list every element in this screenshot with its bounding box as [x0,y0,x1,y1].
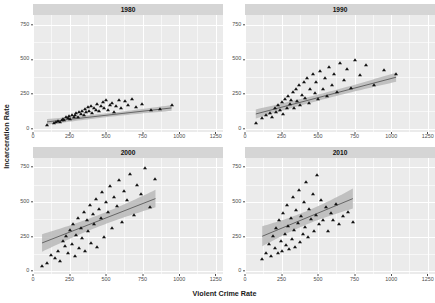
data-point-marker [298,240,302,243]
data-point-marker [296,221,300,224]
data-point-marker [315,174,319,177]
data-point-marker [302,80,306,83]
x-axis: 025050075010001250 [245,132,435,144]
y-axis-tick-label: 250 [20,91,29,96]
data-point-marker [309,217,313,220]
y-axis-tick-label: 500 [232,199,241,204]
x-axis-tick: 500 [102,274,111,282]
data-point-marker [326,230,330,233]
y-axis-tick: 750 [20,22,33,27]
data-point-marker [86,230,90,233]
data-layer [33,15,223,132]
data-point-marker [283,232,287,235]
data-point-marker [128,173,132,176]
data-point-marker [335,90,339,93]
data-point-marker [346,210,350,213]
x-axis: 025050075010001250 [245,274,435,286]
data-point-marker [338,62,342,65]
data-point-marker [323,76,327,79]
x-axis-title-label: Violent Crime Rate [193,289,257,298]
data-point-marker [293,245,297,248]
data-point-marker [120,220,124,223]
facet-panel-1990: 19900250500750025050075010001250 [226,4,435,144]
y-axis-tick: 500 [232,57,245,62]
data-point-marker [110,101,114,104]
data-point-marker [71,222,75,225]
data-point-marker [274,226,278,229]
y-axis-tick-label: 0 [238,126,241,131]
data-point-marker [332,72,336,75]
x-axis-tick: 250 [65,132,74,140]
data-point-marker [122,189,126,192]
facet-strip-label-2010: 2010 [245,147,435,158]
x-axis-tick: 1250 [210,132,222,140]
data-point-marker [312,229,316,232]
data-point-marker [324,205,328,208]
data-point-marker [106,108,110,111]
data-point-marker [148,205,152,208]
x-axis-tick-label: 0 [32,134,35,139]
x-axis-tick-label: 500 [102,277,111,282]
x-axis-tick: 0 [244,132,247,140]
data-point-marker [288,103,292,106]
data-point-marker [53,256,57,259]
facet-strip-label-1980: 1980 [33,4,223,15]
y-axis-tick: 500 [232,199,245,204]
data-point-marker [254,121,258,124]
data-point-marker [351,220,355,223]
data-point-marker [80,237,84,240]
x-axis-tick: 1250 [422,132,434,140]
data-point-marker [308,87,312,90]
x-axis-tick: 500 [314,274,323,282]
x-axis-tick-label: 1000 [385,134,397,139]
data-point-marker [305,77,309,80]
data-point-marker [63,244,67,247]
regression-line [42,198,155,242]
data-point-marker [290,237,294,240]
data-point-marker [95,245,99,248]
x-axis-tick-label: 1250 [422,277,434,282]
data-point-marker [45,124,49,127]
data-point-marker [61,240,65,243]
data-point-marker [45,261,49,264]
data-point-marker [382,68,386,71]
data-point-marker [283,97,287,100]
data-point-marker [303,96,307,99]
x-axis-tick-label: 1000 [173,277,185,282]
y-axis-tick-label: 0 [238,269,241,274]
data-point-marker [149,108,153,111]
x-axis-tick: 1000 [385,274,397,282]
data-point-marker [88,204,92,207]
data-point-marker [314,213,318,216]
data-point-marker [153,177,157,180]
data-point-marker [317,223,321,226]
data-point-marker [302,200,306,203]
data-point-marker [143,167,147,170]
data-point-marker [353,59,357,62]
data-point-marker [58,259,62,262]
data-point-marker [298,104,302,107]
x-axis-title: Violent Crime Rate [14,286,435,300]
data-point-marker [318,69,322,72]
facet-strip-label-1990: 1990 [245,4,435,15]
y-axis-tick-label: 750 [20,165,29,170]
x-axis-tick: 1250 [422,274,434,282]
x-axis-tick: 250 [277,132,286,140]
data-point-marker [76,216,80,219]
x-axis-tick: 500 [314,132,323,140]
facet-panel-2000: 20000250500750025050075010001250 [14,147,223,287]
data-point-marker [331,218,335,221]
x-axis-tick-label: 1250 [210,134,222,139]
y-axis-tick: 250 [232,91,245,96]
data-point-marker [66,251,70,254]
data-point-marker [341,214,345,217]
x-axis-tick: 1000 [173,132,185,140]
y-axis: 0250500750 [14,158,33,275]
data-point-marker [273,247,277,250]
data-point-marker [79,226,83,229]
data-layer [245,158,435,275]
y-axis-tick-label: 750 [20,22,29,27]
data-point-marker [307,101,311,104]
data-point-marker [285,203,289,206]
data-point-marker [294,208,298,211]
